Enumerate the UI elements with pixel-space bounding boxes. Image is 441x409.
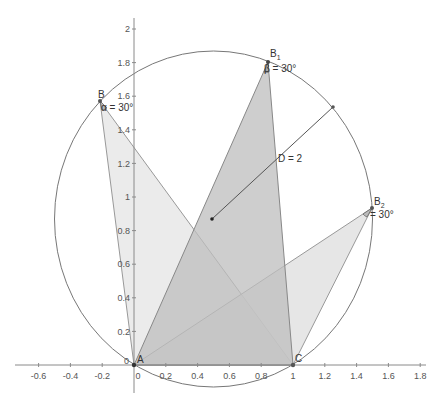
geometry-canvas[interactable]: -0.6 -0.4 -0.2 0 0.2 0.4 0.6 0.8 1 1.2 1… xyxy=(0,0,441,409)
point-center[interactable] xyxy=(210,217,214,221)
x-tick-label: 0 xyxy=(135,371,140,381)
x-tick-label: 1 xyxy=(290,371,295,381)
y-tick-label: 1.8 xyxy=(117,58,130,68)
x-tick-label: 1.4 xyxy=(350,371,363,381)
y-tick-label: 1.2 xyxy=(117,159,130,169)
label-B2-sub: 2 xyxy=(381,202,385,209)
label-B: B xyxy=(98,89,105,100)
origin-label: 0 xyxy=(124,356,129,366)
y-tick-label: 1.6 xyxy=(117,91,130,101)
angle-label-alpha: α = 30° xyxy=(101,102,133,113)
point-D-end[interactable] xyxy=(331,105,335,109)
label-B2: B2 xyxy=(374,196,385,209)
label-C: C xyxy=(295,353,302,364)
y-tick-label: 2 xyxy=(125,24,130,34)
label-B1: B1 xyxy=(270,48,281,61)
x-tick-label: -0.6 xyxy=(31,371,47,381)
x-tick-label: 0.2 xyxy=(160,371,173,381)
x-tick-label: 0.4 xyxy=(191,371,204,381)
x-tick-labels: -0.6 -0.4 -0.2 0 0.2 0.4 0.6 0.8 1 1.2 1… xyxy=(31,371,427,381)
x-tick-label: 0.6 xyxy=(223,371,236,381)
diameter-label: D = 2 xyxy=(278,153,303,164)
x-tick-label: -0.4 xyxy=(63,371,79,381)
y-tick-label: 0.6 xyxy=(117,259,130,269)
y-tick-label: 0.2 xyxy=(117,327,130,337)
y-tick-label: 0.8 xyxy=(117,226,130,236)
x-tick-label: 1.2 xyxy=(319,371,332,381)
x-tick-label: -0.2 xyxy=(94,371,110,381)
y-tick-label: 0.4 xyxy=(117,293,130,303)
x-tick-label: 1.8 xyxy=(414,371,427,381)
label-B1-sub: 1 xyxy=(277,54,281,61)
label-A: A xyxy=(137,354,144,365)
angle-label-gamma: = 30° xyxy=(370,209,394,220)
y-tick-label: 1.4 xyxy=(117,125,130,135)
x-tick-label: 0.8 xyxy=(255,371,268,381)
y-tick-label: 1 xyxy=(125,192,130,202)
point-A[interactable] xyxy=(132,363,136,367)
angle-label-beta: β = 30° xyxy=(264,63,296,74)
x-tick-label: 1.6 xyxy=(382,371,395,381)
